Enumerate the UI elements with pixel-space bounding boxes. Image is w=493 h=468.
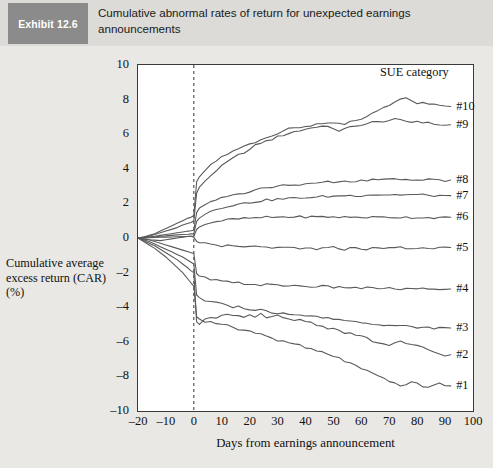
series-label-sue3: #3 xyxy=(456,320,468,335)
chart-figure: Cumulative average excess return (CAR) (… xyxy=(0,46,493,468)
legend-title: SUE category xyxy=(380,65,449,80)
y-tick-label: 10 xyxy=(95,57,129,72)
exhibit-tag-label: Exhibit 12.6 xyxy=(18,18,78,30)
series-line-sue8 xyxy=(138,179,451,238)
series-label-sue9: #9 xyxy=(456,117,468,132)
exhibit-header: Exhibit 12.6 Cumulative abnormal rates o… xyxy=(0,0,493,46)
series-line-sue1 xyxy=(138,238,451,387)
plot-area xyxy=(137,64,474,412)
y-tick-label: 6 xyxy=(95,126,129,141)
y-tick-label: –2 xyxy=(95,265,129,280)
y-tick-label: 8 xyxy=(95,92,129,107)
y-axis-title-line-3: (%) xyxy=(6,285,132,300)
series-label-sue10: #10 xyxy=(456,99,474,114)
series-line-sue3 xyxy=(138,238,451,329)
exhibit-title: Cumulative abnormal rates of return for … xyxy=(98,5,476,36)
series-label-sue8: #8 xyxy=(456,172,468,187)
series-line-sue2 xyxy=(138,238,451,356)
page-root: Exhibit 12.6 Cumulative abnormal rates o… xyxy=(0,0,493,468)
y-tick-label: 2 xyxy=(95,195,129,210)
series-label-sue6: #6 xyxy=(456,209,468,224)
series-lines xyxy=(138,65,473,411)
y-tick-label: –6 xyxy=(95,334,129,349)
x-tick-label: 100 xyxy=(453,414,493,429)
series-label-sue4: #4 xyxy=(456,281,468,296)
series-label-sue5: #5 xyxy=(456,240,468,255)
y-tick-label: 4 xyxy=(95,161,129,176)
series-line-sue4 xyxy=(138,238,451,290)
y-tick-label: 0 xyxy=(95,230,129,245)
series-line-sue5 xyxy=(138,236,451,250)
exhibit-tag: Exhibit 12.6 xyxy=(8,3,88,44)
series-label-sue7: #7 xyxy=(456,188,468,203)
x-axis-title: Days from earnings announcement xyxy=(137,436,474,451)
y-tick-label: –4 xyxy=(95,299,129,314)
series-label-sue1: #1 xyxy=(456,378,468,393)
y-tick-label: –8 xyxy=(95,368,129,383)
series-label-sue2: #2 xyxy=(456,347,468,362)
